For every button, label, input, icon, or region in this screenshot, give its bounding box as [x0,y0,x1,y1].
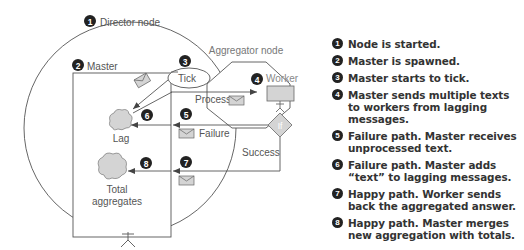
legend-text: Node is started. [348,38,524,50]
process-label: Process [195,94,231,105]
master-actor-icon [121,232,135,247]
legend-text: Failure path. Master adds “text” to lagg… [348,159,524,183]
total-label-line2: aggregates [92,196,142,207]
step-badge: 8 [332,217,343,228]
svg-text:8: 8 [144,159,149,169]
total-label-line1: Total [106,184,127,195]
lag-badge: 6 [141,109,153,121]
envelope-icon [229,96,244,105]
failure-badge: 5 [180,108,192,120]
legend-text: Happy path. Master merges new aggregatio… [348,217,524,241]
director-node-title: 1 Director node [84,15,160,28]
svg-text:2: 2 [76,61,81,71]
svg-text:7: 7 [184,158,189,168]
svg-text:Director node: Director node [100,17,160,28]
envelope-icon [179,176,194,185]
svg-text:4: 4 [255,75,260,85]
legend-text: Master is spawned. [348,55,524,67]
legend-item: 6 Failure path. Master adds “text” to la… [332,159,524,183]
envelope-icon [179,129,194,138]
svg-text:6: 6 [145,111,150,121]
legend-text: Master sends multiple texts to workers f… [348,89,524,125]
legend-text: Failure path. Master receives unprocesse… [348,130,524,154]
svg-text:1: 1 [88,17,93,27]
legend-item: 2 Master is spawned. [332,55,524,67]
legend-item: 1 Node is started. [332,38,524,50]
aggregator-node-label: Aggregator node [209,45,284,56]
success-badge: 7 [180,156,192,168]
legend-text: Master starts to tick. [348,72,524,84]
step-badge: 2 [332,55,343,66]
legend-text: Happy path. Worker sends back the aggreg… [348,188,524,212]
lag-label: Lag [113,133,130,144]
svg-text:Tick: Tick [178,73,197,84]
svg-text:3: 3 [183,57,188,67]
svg-text:Master: Master [87,61,118,72]
legend-item: 3 Master starts to tick. [332,72,524,84]
legend-item: 5 Failure path. Master receives unproces… [332,130,524,154]
legend: 1 Node is started. 2 Master is spawned. … [332,38,524,246]
step-badge: 5 [332,130,343,141]
tick-node: 3 Tick [168,55,210,88]
step-badge: 1 [332,38,343,49]
svg-text:Worker: Worker [266,73,299,84]
success-label: Success [242,147,280,158]
total-badge: 8 [140,157,152,169]
step-badge: 6 [332,159,343,170]
master-title: 2 Master [72,59,118,72]
svg-text:If: If [278,121,283,131]
legend-item: 7 Happy path. Worker sends back the aggr… [332,188,524,212]
legend-item: 8 Happy path. Master merges new aggregat… [332,217,524,241]
step-badge: 4 [332,89,343,100]
legend-item: 4 Master sends multiple texts to workers… [332,89,524,125]
step-badge: 7 [332,188,343,199]
step-badge: 3 [332,72,343,83]
director-aggregator-diagram: 1 Director node 2 Master 3 Tick Aggregat… [0,0,330,250]
master-box [73,73,171,237]
failure-label: Failure [199,128,230,139]
svg-text:5: 5 [184,110,189,120]
